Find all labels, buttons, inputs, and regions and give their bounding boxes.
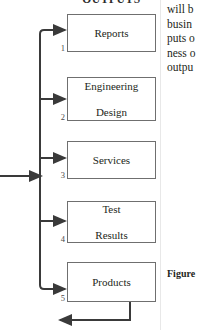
body-text-column: will b busin puts o ness o outpu	[167, 2, 209, 75]
body-text-line: puts o	[167, 31, 209, 46]
figure-caption: Figure	[167, 268, 209, 279]
process-box-label-line1: Engineering	[82, 80, 142, 93]
diagram-title: OUTPUTS	[67, 0, 156, 5]
process-box-services[interactable]: Services	[67, 141, 156, 179]
process-box-label: Reports	[91, 27, 131, 40]
column-divider	[160, 0, 161, 330]
process-box-test-results[interactable]: Test Results	[67, 201, 156, 243]
process-box-products[interactable]: Products	[67, 262, 156, 302]
process-box-label: Products	[89, 276, 134, 289]
process-box-reports[interactable]: Reports	[67, 14, 156, 52]
body-text-line: will b	[167, 2, 209, 17]
output-arrow	[60, 302, 130, 320]
process-box-label: Test Results	[89, 203, 133, 242]
process-box-engineering-design[interactable]: Engineering Design	[67, 77, 156, 121]
process-box-label: Services	[90, 154, 133, 167]
box-number-5: 5	[53, 293, 65, 303]
figure-page: OUTPUTS Reports Engineering Design	[0, 0, 209, 330]
box-number-1: 1	[53, 43, 65, 53]
process-box-label-line2: Results	[92, 229, 130, 242]
box-number-3: 3	[53, 170, 65, 180]
body-text-line: ness o	[167, 46, 209, 61]
process-box-label: Engineering Design	[79, 80, 145, 119]
body-text-line: outpu	[167, 60, 209, 75]
spine-top-elbow	[40, 30, 52, 34]
process-box-label-line1: Test	[92, 203, 130, 216]
box-number-2: 2	[53, 112, 65, 122]
spine-bottom-elbow	[40, 285, 52, 289]
box-number-4: 4	[53, 234, 65, 244]
process-box-label-line2: Design	[82, 106, 142, 119]
body-text-line: busin	[167, 17, 209, 32]
